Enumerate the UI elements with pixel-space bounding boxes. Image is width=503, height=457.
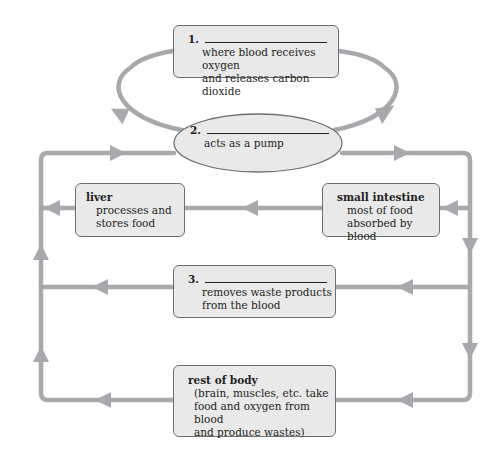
heart-desc: acts as a pump bbox=[190, 137, 329, 150]
liver-box: liver processes and stores food bbox=[75, 183, 185, 237]
kidneys-desc-2: from the blood bbox=[188, 299, 335, 312]
lungs-box: 1. where blood receives oxygen and relea… bbox=[173, 25, 339, 78]
small-intestine-desc-2: absorbed by blood bbox=[337, 217, 439, 243]
arrow-intestine-liver bbox=[242, 200, 258, 216]
rest-of-body-desc-3: and produce wastes) bbox=[188, 426, 335, 439]
arrow-left-up-2 bbox=[33, 346, 49, 362]
kidneys-number: 3. bbox=[188, 273, 199, 285]
heart-label: 2. acts as a pump bbox=[190, 124, 329, 150]
arrow-into-body bbox=[397, 392, 413, 408]
rest-of-body-title: rest of body bbox=[188, 374, 335, 387]
arrow-top-right bbox=[394, 145, 410, 161]
heart-answer-blank[interactable] bbox=[207, 124, 329, 134]
lungs-desc-1: where blood receives oxygen bbox=[188, 46, 338, 72]
arrow-into-intestine bbox=[442, 200, 458, 216]
liver-title: liver bbox=[86, 191, 184, 204]
small-intestine-desc-1: most of food bbox=[337, 204, 439, 217]
rest-of-body-desc-2: food and oxygen from blood bbox=[188, 400, 335, 426]
arrow-right-down-2 bbox=[462, 343, 478, 359]
arrow-right-down-1 bbox=[462, 238, 478, 254]
arrow-kidney-left bbox=[92, 279, 108, 295]
pulmonary-loop-right bbox=[334, 51, 397, 130]
arrow-body-left bbox=[95, 392, 111, 408]
lungs-answer-blank[interactable] bbox=[205, 33, 327, 43]
rest-of-body-desc-1: (brain, muscles, etc. take bbox=[188, 387, 335, 400]
arrow-left-up-1 bbox=[33, 244, 49, 260]
arrow-top-left bbox=[110, 145, 126, 161]
liver-desc-2: stores food bbox=[86, 217, 184, 230]
kidneys-desc-1: removes waste products bbox=[188, 286, 335, 299]
kidneys-answer-blank[interactable] bbox=[205, 273, 327, 283]
lungs-number: 1. bbox=[188, 33, 199, 45]
small-intestine-title: small intestine bbox=[337, 191, 439, 204]
kidneys-box: 3. removes waste products from the blood bbox=[173, 265, 336, 318]
rest-of-body-box: rest of body (brain, muscles, etc. take … bbox=[173, 365, 336, 437]
lungs-desc-2: and releases carbon dioxide bbox=[188, 72, 338, 98]
liver-desc-1: processes and bbox=[86, 204, 184, 217]
small-intestine-box: small intestine most of food absorbed by… bbox=[322, 183, 440, 237]
arrow-into-kidney bbox=[397, 279, 413, 295]
heart-number: 2. bbox=[190, 124, 201, 136]
arrow-liver-out bbox=[44, 200, 60, 216]
